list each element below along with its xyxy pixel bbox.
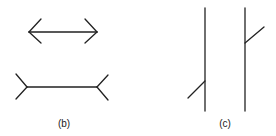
panel-c-label: (c) [219,119,231,129]
figure-canvas [0,0,276,136]
panel-c-right-line [245,8,264,111]
panel-b-arrow-line [29,19,97,43]
panel-c-left-line [188,8,205,111]
panel-b-label: (b) [58,119,70,129]
panel-b-fin-line [16,74,108,100]
